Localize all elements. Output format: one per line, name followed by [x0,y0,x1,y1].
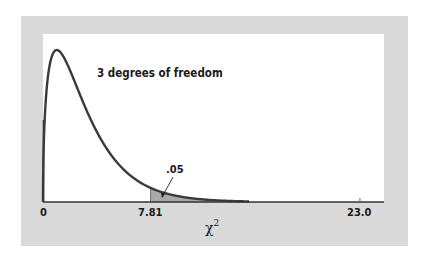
x-tick-label-0: 0 [40,206,47,219]
x-tick-label-23: 23.0 [347,206,371,219]
df-annotation: 3 degrees of freedom [97,66,223,80]
tail-probability-label: .05 [166,163,184,176]
squared-superscript: 2 [213,218,219,228]
x-axis-label: χ2 [205,219,219,236]
x-tick-label-7-81: 7.81 [138,206,162,219]
